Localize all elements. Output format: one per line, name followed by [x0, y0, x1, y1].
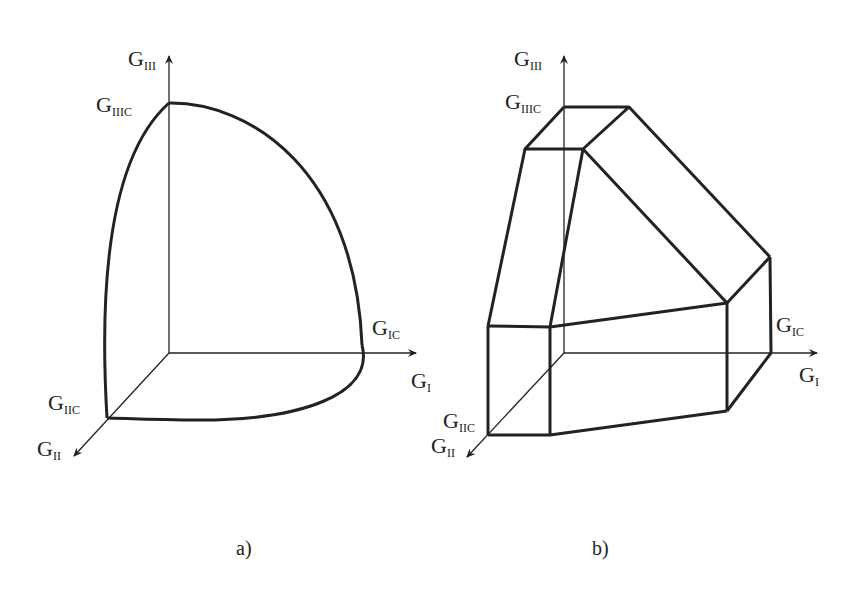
panel-b-axes — [467, 56, 817, 457]
panel-a-envelope — [105, 103, 364, 420]
axis-g-ii-a — [74, 353, 169, 456]
label-g-i-b: GI — [799, 364, 819, 388]
envelope-curve-i-ii — [107, 345, 363, 420]
envelope-curve-ii-iii — [105, 103, 169, 418]
diagram-canvas — [0, 0, 863, 594]
edge — [550, 149, 583, 327]
label-g-ic-a: GIC — [372, 317, 400, 341]
label-g-ii-b: GII — [431, 435, 455, 459]
label-g-iiic-b: GIIIC — [505, 91, 541, 115]
label-g-iii-a: GIII — [128, 48, 156, 72]
label-g-iic-b: GIIC — [443, 410, 475, 434]
label-g-ii-a: GII — [37, 438, 61, 462]
label-g-iiic-a: GIIIC — [96, 94, 132, 118]
label-g-ic-b: GIC — [776, 314, 804, 338]
edge — [583, 149, 727, 303]
edge — [488, 411, 727, 435]
edge — [727, 353, 771, 411]
label-g-iii-b: GIII — [514, 48, 542, 72]
panel-b-envelope — [488, 107, 771, 435]
edge — [727, 257, 770, 303]
label-g-iic-a: GIIC — [48, 392, 80, 416]
caption-b: b) — [592, 537, 609, 560]
edge — [488, 149, 525, 326]
edge — [770, 257, 771, 353]
caption-a: a) — [236, 537, 252, 560]
label-g-i-a: GI — [411, 370, 431, 394]
edge — [629, 107, 770, 257]
envelope-curve-iii-i — [169, 103, 362, 345]
edge — [488, 303, 727, 327]
